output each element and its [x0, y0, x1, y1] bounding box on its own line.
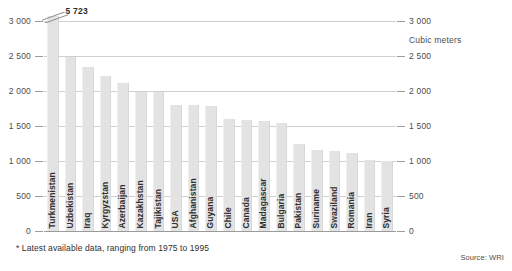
y-tick-label-left: 1 000: [0, 157, 31, 166]
x-tick-label: Kyrgyzstan: [100, 181, 109, 228]
bar-slot: [82, 21, 94, 231]
axis-tick-left: [35, 196, 43, 197]
axis-tick-right: [397, 231, 405, 232]
axis-tick-left: [35, 126, 43, 127]
axis-tick-right: [397, 196, 405, 197]
y-tick-label-right: 1 500: [409, 122, 431, 131]
axis-tick-right: [397, 91, 405, 92]
x-tick-label: USA: [171, 210, 180, 228]
y-tick-label-right: 1 000: [409, 157, 431, 166]
bar-slot: [170, 21, 182, 231]
axis-tick-right: [397, 161, 405, 162]
x-tick-label: Madagascar: [259, 178, 268, 228]
y-tick-label-right: 500: [409, 192, 424, 201]
footnote: * Latest available data, ranging from 19…: [16, 243, 209, 253]
axis-baseline: [44, 231, 396, 232]
x-tick-label: Guyana: [206, 196, 215, 228]
x-tick-label: Suriname: [312, 188, 321, 228]
x-tick-label: Kazakhstan: [136, 180, 145, 228]
x-tick-label: Tajikistan: [153, 188, 162, 228]
x-tick-label: Chile: [224, 207, 233, 228]
x-tick-label: Azerbaijan: [118, 184, 127, 228]
y-tick-label-left: 500: [0, 192, 31, 201]
y-tick-label-right: 2 000: [409, 87, 431, 96]
axis-tick-right: [397, 126, 405, 127]
y-tick-label-left: 3 000: [0, 17, 31, 26]
axis-tick-left: [35, 56, 43, 57]
x-tick-label: Uzbekistan: [65, 182, 74, 228]
y-tick-label-left: 2 000: [0, 87, 31, 96]
x-tick-label: Afghanistan: [188, 178, 197, 228]
axis-tick-left: [35, 91, 43, 92]
plot-area: [44, 21, 396, 231]
y-tick-label-left: 1 500: [0, 122, 31, 131]
bar-slot: [364, 21, 376, 231]
x-tick-label: Romania: [347, 191, 356, 228]
x-tick-label: Iraq: [83, 212, 92, 228]
axis-tick-right: [397, 21, 405, 22]
y-tick-label-right: 0: [409, 227, 414, 236]
axis-tick-left: [35, 161, 43, 162]
bar[interactable]: [82, 67, 94, 231]
x-tick-label: Turkmenistan: [48, 172, 57, 228]
x-tick-label: Bulgaria: [276, 193, 285, 228]
x-tick-label: Canada: [241, 197, 250, 228]
axis-tick-right: [397, 56, 405, 57]
y-tick-label-right: 2 500: [409, 52, 431, 61]
chart-root: 05001 0001 5002 0002 5003 000 05001 0001…: [0, 0, 512, 271]
y-tick-label-right: 3 000: [409, 17, 431, 26]
x-tick-label: Swaziland: [329, 186, 338, 228]
y-tick-label-left: 0: [0, 227, 31, 236]
y-tick-label-left: 2 500: [0, 52, 31, 61]
axis-tick-left: [35, 231, 43, 232]
x-tick-label: Syria: [382, 207, 391, 228]
bar-slot: [381, 21, 393, 231]
y-axis-units-label: Cubic meters: [409, 35, 461, 45]
x-tick-label: Iran: [364, 212, 373, 228]
truncated-bar-value-label: 5 723: [66, 6, 88, 16]
source-credit: Source: WRI: [460, 253, 504, 262]
x-tick-label: Pakistan: [294, 192, 303, 228]
bar-slot: [223, 21, 235, 231]
bars-layer: [44, 21, 396, 231]
